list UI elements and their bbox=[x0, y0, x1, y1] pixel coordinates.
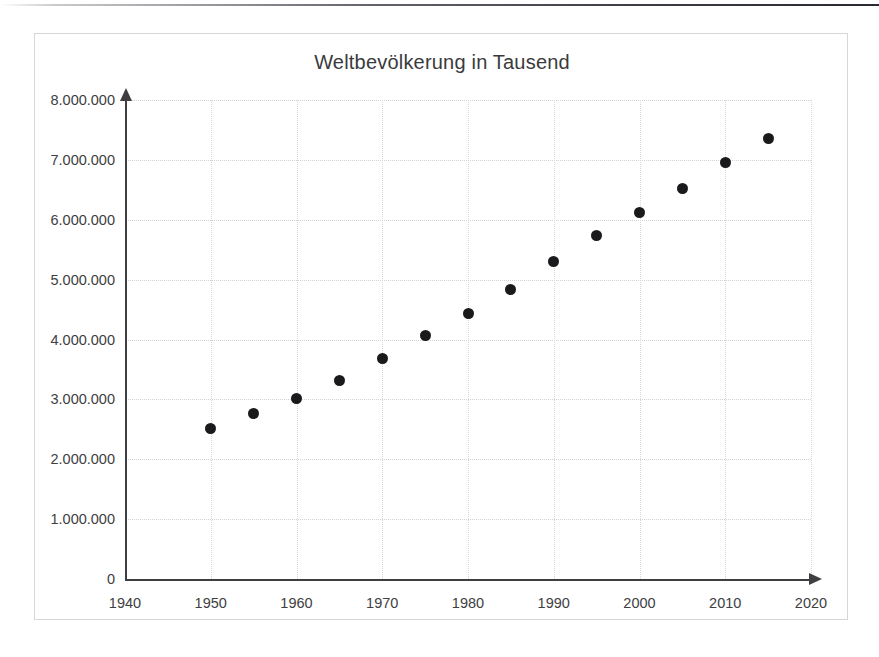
y-axis-tick-label: 7.000.000 bbox=[50, 152, 115, 168]
gridline-vertical bbox=[554, 100, 555, 579]
x-axis-line bbox=[125, 579, 811, 581]
y-axis-arrow-icon bbox=[120, 88, 132, 101]
data-point bbox=[463, 308, 474, 319]
gridline-vertical bbox=[468, 100, 469, 579]
gridline-vertical bbox=[382, 100, 383, 579]
data-point bbox=[720, 157, 731, 168]
gridline-vertical bbox=[725, 100, 726, 579]
x-axis-arrow-icon bbox=[809, 573, 822, 585]
data-point bbox=[334, 375, 345, 386]
y-axis-tick-label: 5.000.000 bbox=[50, 272, 115, 288]
y-axis-tick-label: 4.000.000 bbox=[50, 332, 115, 348]
y-axis-tick-label: 0 bbox=[107, 571, 115, 587]
data-point bbox=[377, 353, 388, 364]
x-axis-tick-label: 2020 bbox=[795, 595, 827, 611]
data-point bbox=[205, 423, 216, 434]
chart-title: Weltbevölkerung in Tausend bbox=[35, 51, 849, 74]
y-axis-tick-label: 8.000.000 bbox=[50, 92, 115, 108]
data-point bbox=[763, 133, 774, 144]
x-axis-tick-label: 1980 bbox=[452, 595, 484, 611]
x-axis-tick-label: 1950 bbox=[195, 595, 227, 611]
data-point bbox=[505, 284, 516, 295]
chart-frame: Weltbevölkerung in Tausend 01.000.0002.0… bbox=[34, 33, 848, 620]
data-point bbox=[291, 393, 302, 404]
data-point bbox=[677, 183, 688, 194]
data-point bbox=[591, 230, 602, 241]
x-axis-tick-label: 2000 bbox=[623, 595, 655, 611]
x-axis-tick-label: 1990 bbox=[538, 595, 570, 611]
data-point bbox=[634, 207, 645, 218]
y-axis-line bbox=[125, 100, 127, 579]
y-axis-tick-label: 6.000.000 bbox=[50, 212, 115, 228]
x-axis-tick-label: 1970 bbox=[366, 595, 398, 611]
gridline-vertical bbox=[297, 100, 298, 579]
scan-artifact-line bbox=[0, 4, 879, 6]
y-axis-tick-label: 1.000.000 bbox=[50, 511, 115, 527]
y-axis-tick-label: 3.000.000 bbox=[50, 391, 115, 407]
gridline-vertical bbox=[211, 100, 212, 579]
x-axis-tick-label: 1960 bbox=[280, 595, 312, 611]
plot-area: 01.000.0002.000.0003.000.0004.000.0005.0… bbox=[125, 100, 811, 579]
gridline-vertical bbox=[811, 100, 812, 579]
y-axis-tick-label: 2.000.000 bbox=[50, 451, 115, 467]
gridline-vertical bbox=[640, 100, 641, 579]
data-point bbox=[248, 408, 259, 419]
data-point bbox=[548, 256, 559, 267]
x-axis-tick-label: 1940 bbox=[109, 595, 141, 611]
x-axis-tick-label: 2010 bbox=[709, 595, 741, 611]
data-point bbox=[420, 330, 431, 341]
